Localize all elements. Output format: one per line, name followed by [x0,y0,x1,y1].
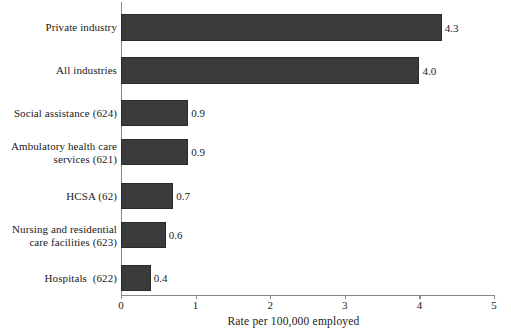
bar-nursing-residential-care [121,222,166,248]
bar-value-ambulatory-health-care: 0.9 [191,146,205,158]
x-tick-label-0: 0 [118,299,124,311]
category-label-all-industries: All industries [0,64,117,77]
x-tick-label-1: 1 [193,299,199,311]
bar-value-nursing-residential-care: 0.6 [169,229,183,241]
bar-value-hcsa: 0.7 [176,190,190,202]
category-label-private-industry: Private industry [0,21,117,34]
bar-value-hospitals: 0.4 [154,272,168,284]
x-axis-line [121,295,494,296]
bar-social-assistance [121,100,188,126]
x-tick-label-2: 2 [267,299,273,311]
bar-all-industries [121,57,419,84]
bar-ambulatory-health-care [121,139,188,165]
x-axis-title: Rate per 100,000 employed [0,315,511,327]
x-tick-label-3: 3 [342,299,348,311]
bar-value-private-industry: 4.3 [445,22,459,34]
bar-value-social-assistance: 0.9 [191,107,205,119]
category-label-hospitals: Hospitals (622) [0,272,117,285]
category-label-nursing-residential-care: Nursing and residential care facilities … [0,223,117,248]
category-label-ambulatory-health-care: Ambulatory health care services (621) [0,140,117,165]
x-tick-label-4: 4 [417,299,423,311]
category-label-social-assistance: Social assistance (624) [0,107,117,120]
bar-value-all-industries: 4.0 [422,65,436,77]
bar-private-industry [121,14,442,41]
bar-hospitals [121,265,151,291]
bar-chart: Private industry All industries Social a… [0,0,511,333]
category-label-hcsa: HCSA (62) [0,190,117,203]
bar-hcsa [121,183,173,209]
x-tick-label-5: 5 [491,299,497,311]
